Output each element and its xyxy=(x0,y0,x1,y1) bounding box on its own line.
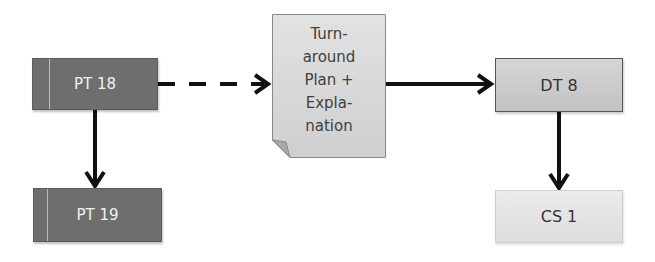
arrow-pt18-to-pt19 xyxy=(86,110,104,186)
node-pt18-label: PT 18 xyxy=(74,75,116,93)
arrow-dt8-to-cs1 xyxy=(550,112,568,188)
node-pt19-label: PT 19 xyxy=(76,206,118,224)
node-dt8-label: DT 8 xyxy=(540,76,577,95)
node-turnaround-plan-label: Turn- around Plan + Expla- nation xyxy=(303,23,356,150)
node-cs1: CS 1 xyxy=(495,190,623,243)
node-pt19: PT 19 xyxy=(33,188,162,242)
node-stripe xyxy=(47,189,48,241)
dashed-arrow-pt18-to-plan xyxy=(158,75,268,93)
arrow-plan-to-dt8 xyxy=(385,75,491,93)
node-turnaround-plan-document: Turn- around Plan + Expla- nation xyxy=(272,14,386,158)
node-cs1-label: CS 1 xyxy=(541,207,578,226)
node-stripe xyxy=(49,59,50,109)
node-pt18: PT 18 xyxy=(32,58,158,110)
node-dt8: DT 8 xyxy=(495,58,623,112)
